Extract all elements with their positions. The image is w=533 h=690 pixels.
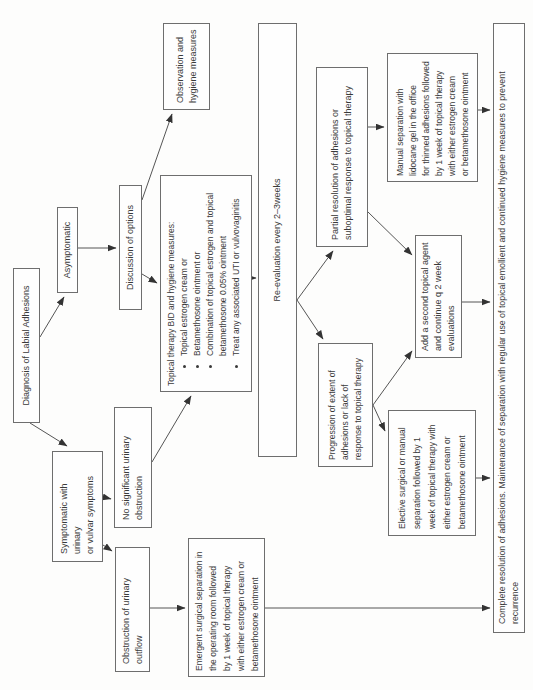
node-no-significant-obstruction: No significant urinary obstruction [114,407,152,528]
node-symptomatic: Symptomatic with urinary or vulvar sympt… [52,451,103,562]
node-observation: Observation and hygiene measures [163,23,210,110]
node-complete-resolution: Complete resolution of adhesions. Mainte… [493,23,525,633]
topical-therapy-title: Topical therapy BID and hygiene measures… [165,222,178,386]
flowchart-canvas: Diagnosis of Labial Adhesions Symptomati… [0,0,533,690]
arrow-nosig-topical [152,396,191,462]
arrow-diagnosis-asymptomatic [40,297,64,337]
node-asymptomatic: Asymptomatic [57,207,78,293]
node-manual-separation: Manual separation with lidocane gel in t… [387,53,478,182]
arrow-symptomatic-obstruction [103,545,112,551]
arrow-symptomatic-nosig [103,497,111,499]
node-partial-resolution: Partial resolution of adhesions or subop… [316,67,368,247]
arrow-discussion-topical [142,274,157,283]
node-topical-therapy: Topical therapy BID and hygiene measures… [160,175,252,392]
node-add-second-agent: Add a second topical agent and continue … [415,235,462,358]
topical-bullet-combination: Combination of topical estrogen and topi… [204,181,230,356]
arrow-progression-addsecond [373,351,412,405]
topical-bullet-treat-uti: Treat any associated UTI or vulvovaginit… [230,181,243,356]
node-discussion: Discussion of options [119,185,142,310]
topical-bullet-estrogen: Topical estrogen cream or [178,181,191,356]
node-elective-separation: Elective surgical or manual separation f… [388,410,476,536]
node-diagnosis: Diagnosis of Labial Adhesions [13,268,40,423]
topical-bullet-betamethosone: Betamethosone ointment or [191,181,204,356]
arrow-diagnosis-symptomatic [30,423,67,446]
node-reevaluation: Re-evaluation every 2–3weeks [258,23,297,457]
node-emergent-separation: Emergent surgical separation in the oper… [188,538,265,677]
arrow-reeval-progression [297,300,323,339]
arrow-partial-addsecond [368,212,412,255]
flowchart-page: Diagnosis of Labial Adhesions Symptomati… [0,0,533,690]
node-progression: Progression of extent of adhesions or la… [318,343,373,467]
topical-therapy-bullets: Topical estrogen cream or Betamethosone … [178,181,243,386]
arrow-progression-elective [373,405,385,431]
node-obstruction: Obstruction of urinary outflow [115,547,150,672]
arrow-reeval-partial [297,251,333,300]
